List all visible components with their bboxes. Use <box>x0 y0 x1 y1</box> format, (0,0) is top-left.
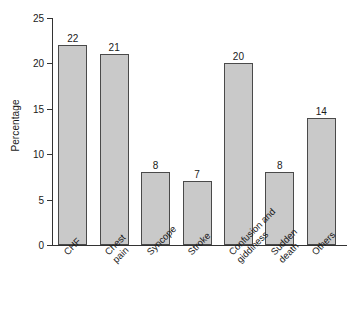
y-axis-tick-mark <box>47 18 52 19</box>
y-axis-tick-label: 15 <box>33 103 44 114</box>
y-axis-tick-label: 20 <box>33 58 44 69</box>
bar-value-label: 21 <box>109 42 120 53</box>
y-axis-tick-mark <box>47 109 52 110</box>
bar-value-label: 22 <box>67 33 78 44</box>
y-axis-tick-mark <box>47 245 52 246</box>
y-axis-tick-label: 25 <box>33 13 44 24</box>
bar-chart-figure: Percentage 0510152025 22218720814 CHFChe… <box>0 0 357 317</box>
y-axis-tick-mark <box>47 63 52 64</box>
y-axis-title-text: Percentage <box>10 99 21 151</box>
bar-value-label: 14 <box>316 106 327 117</box>
y-axis-title: Percentage <box>4 0 26 250</box>
y-axis-tick-mark <box>47 154 52 155</box>
bar-value-label: 7 <box>194 169 200 180</box>
bar-value-label: 8 <box>153 160 159 171</box>
bar: 22 <box>58 45 87 245</box>
bar-value-label: 20 <box>233 51 244 62</box>
y-axis-line <box>52 18 53 245</box>
y-axis-tick-label: 5 <box>38 194 44 205</box>
plot-area: 0510152025 22218720814 <box>52 18 342 245</box>
bar: 20 <box>224 63 253 245</box>
y-axis-tick-label: 10 <box>33 149 44 160</box>
bar: 21 <box>100 54 129 245</box>
bar: 14 <box>307 118 336 245</box>
bar-value-label: 8 <box>277 160 283 171</box>
y-axis-tick-mark <box>47 200 52 201</box>
y-axis-tick-label: 0 <box>38 240 44 251</box>
